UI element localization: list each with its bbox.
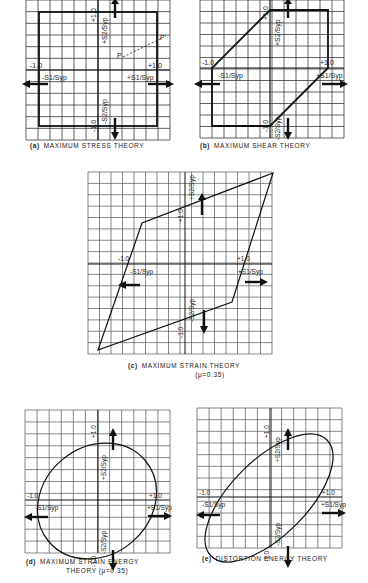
arrow-left-icon xyxy=(196,511,220,519)
panel-c-maximum-strain-theory: -1.0 +1.0 -S1/Syp +S1/Syp +1.0 +S2/Syp -… xyxy=(0,160,368,380)
grid xyxy=(200,0,344,138)
neg-y-tick-label: -1.0 xyxy=(90,120,97,132)
panel-d-maximum-strain-energy-theory: -1.0 +1.0 -S1/Syp +S1/Syp +1.0 +S2/Syp -… xyxy=(0,400,184,583)
pos-x-tick-label: +1.0 xyxy=(148,62,162,69)
point-p-label: P xyxy=(117,52,122,59)
caption-title: DISTORTION ENERGY THEORY xyxy=(216,555,328,562)
arrow-left-icon xyxy=(24,513,48,521)
caption-title: MAXIMUM STRAIN ENERGY xyxy=(40,558,139,565)
caption-tag: (b) xyxy=(200,142,210,149)
caption-subtitle: THEORY (μ=0.35) xyxy=(26,566,139,575)
pos-x-tick-label: +1.0 xyxy=(320,59,334,66)
neg-x-axis-label: -S1/Syp xyxy=(202,501,226,509)
pos-x-tick-label: +1.0 xyxy=(149,492,162,499)
neg-x-axis-label: -S1/Syp xyxy=(35,504,59,512)
caption-line-1: (c)MAXIMUM STRAIN THEORY xyxy=(0,361,368,370)
neg-x-tick-label: -1.0 xyxy=(30,62,42,69)
neg-y-axis-label: -S2/Syp xyxy=(188,298,196,322)
point-p-prime-label: P' xyxy=(160,34,166,41)
panel-a-plot: -1.0 +1.0 -S1/Syp +S1/Syp +1.0 +S2/Syp -… xyxy=(0,0,184,152)
arrow-right-icon xyxy=(148,512,172,520)
pos-y-tick-label: +1.0 xyxy=(90,425,97,438)
pos-y-tick-label: +1.0 xyxy=(263,425,270,438)
pos-x-axis-label: +S1/Syp xyxy=(321,501,346,509)
arrow-up-icon xyxy=(109,428,117,450)
arrow-down-icon xyxy=(284,118,292,140)
panel-c-plot: -1.0 +1.0 -S1/Syp +S1/Syp +1.0 +S2/Syp -… xyxy=(0,160,368,380)
pos-x-axis-label: +S1/Syp xyxy=(316,72,343,80)
pos-y-axis-label: +S2/Syp xyxy=(274,19,282,46)
caption-tag: (a) xyxy=(30,142,40,149)
caption-b: (b)MAXIMUM SHEAR THEORY xyxy=(200,142,310,149)
arrow-left-icon xyxy=(194,80,220,88)
neg-x-tick-label: -1.0 xyxy=(199,489,211,496)
arrow-up-icon xyxy=(284,0,292,18)
neg-x-tick-label: -1.0 xyxy=(118,255,130,262)
caption-d: (d)MAXIMUM STRAIN ENERGY THEORY (μ=0.35) xyxy=(26,557,139,575)
panel-b-plot: -1.0 +1.0 -S1/Syp +S1/Syp +1.0 +S2/Syp -… xyxy=(184,0,368,152)
neg-x-tick-label: -1.0 xyxy=(27,492,39,499)
caption-a: (a)MAXIMUM STRESS THEORY xyxy=(30,142,144,149)
arrow-up-icon xyxy=(198,193,206,215)
arrow-right-icon xyxy=(245,278,268,286)
pos-y-tick-label: +1.0 xyxy=(90,8,97,22)
neg-y-axis-label: -S2/Syp xyxy=(274,116,282,140)
pos-y-tick-label: +1.0 xyxy=(262,6,269,20)
arrow-down-icon xyxy=(111,118,119,140)
panel-e-distortion-energy-theory: -1.0 +1.0 -S1/Syp +S1/Syp +1.0 +S2/Syp -… xyxy=(184,400,368,583)
neg-y-tick-label: -1.0 xyxy=(262,120,269,132)
pos-x-axis-label: +S1/Syp xyxy=(127,74,154,82)
neg-x-axis-label: -S1/Syp xyxy=(42,74,67,82)
caption-title: MAXIMUM SHEAR THEORY xyxy=(214,142,310,149)
pos-y-axis-label: +S2/Syp xyxy=(188,175,196,200)
caption-title: MAXIMUM STRESS THEORY xyxy=(44,142,144,149)
pos-y-axis-label: +S2/Syp xyxy=(274,437,282,462)
neg-y-axis-label: -S2/Syp xyxy=(101,99,109,124)
caption-tag: (d) xyxy=(26,558,36,565)
pos-y-axis-label: +S2/Syp xyxy=(101,17,109,44)
caption-subtitle: (μ=0.35) xyxy=(0,370,368,379)
arrow-right-icon xyxy=(322,509,346,517)
pos-y-axis-label: +S2/Syp xyxy=(100,455,108,480)
panel-b-maximum-shear-theory: -1.0 +1.0 -S1/Syp +S1/Syp +1.0 +S2/Syp -… xyxy=(184,0,368,152)
caption-tag: (e) xyxy=(202,555,212,562)
pos-x-axis-label: +S1/Syp xyxy=(147,504,172,512)
caption-c: (c)MAXIMUM STRAIN THEORY (μ=0.35) xyxy=(0,361,368,379)
panel-a-maximum-stress-theory: -1.0 +1.0 -S1/Syp +S1/Syp +1.0 +S2/Syp -… xyxy=(0,0,184,152)
arrow-up-icon xyxy=(111,0,119,18)
caption-tag: (c) xyxy=(128,362,138,369)
caption-e: (e)DISTORTION ENERGY THEORY xyxy=(202,555,328,562)
neg-x-axis-label: -S1/Syp xyxy=(130,268,154,276)
pos-x-axis-label: +S1/Syp xyxy=(238,268,263,276)
pos-y-tick-label: +1.0 xyxy=(177,209,184,222)
caption-line-1: (d)MAXIMUM STRAIN ENERGY xyxy=(26,557,139,566)
caption-title: MAXIMUM STRAIN THEORY xyxy=(142,362,240,369)
neg-y-tick-label: -1.0 xyxy=(177,326,184,338)
pos-x-tick-label: +1.0 xyxy=(237,255,250,262)
neg-x-axis-label: -S1/Syp xyxy=(218,72,243,80)
neg-y-axis-label: -S2/Syp xyxy=(274,522,282,546)
panel-d-plot: -1.0 +1.0 -S1/Syp +S1/Syp +1.0 +S2/Syp -… xyxy=(0,400,184,583)
neg-x-tick-label: -1.0 xyxy=(202,59,214,66)
pos-x-tick-label: +1.0 xyxy=(322,489,335,496)
neg-y-axis-label: -S2/Syp xyxy=(100,530,108,554)
